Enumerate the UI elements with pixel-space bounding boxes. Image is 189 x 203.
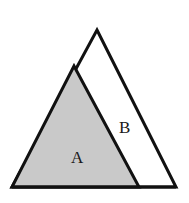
region-label-a: A	[71, 149, 83, 166]
region-label-b: B	[119, 119, 130, 136]
figure-canvas	[0, 0, 189, 203]
geometry-figure: A B	[0, 0, 189, 203]
